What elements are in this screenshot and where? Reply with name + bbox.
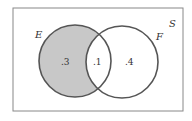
region-f-only-value: .4 <box>125 57 134 67</box>
venn-diagram: S E F .3 .1 .4 <box>0 0 192 121</box>
universe-label: S <box>169 18 176 29</box>
set-f-label: F <box>155 31 164 42</box>
region-e-only-value: .3 <box>61 57 70 67</box>
region-intersection-value: .1 <box>93 57 102 67</box>
set-e-label: E <box>34 29 43 40</box>
